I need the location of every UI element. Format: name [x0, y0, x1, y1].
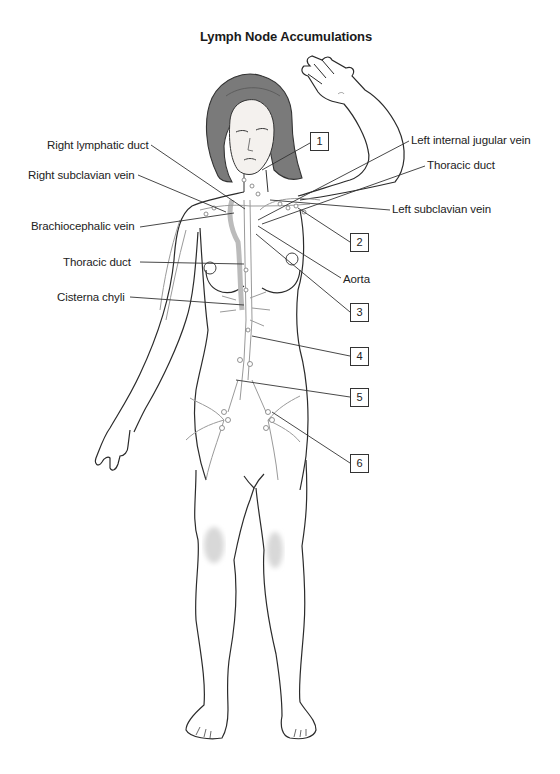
label-thoracic-duct-right: Thoracic duct [427, 159, 495, 172]
label-thoracic-duct-left: Thoracic duct [63, 256, 131, 269]
label-right-lymphatic-duct: Right lymphatic duct [47, 139, 149, 152]
head [229, 100, 274, 192]
lymphatic-vessels [160, 198, 320, 480]
label-left-subclavian-vein: Left subclavian vein [392, 203, 491, 216]
label-cisterna-chyli: Cisterna chyli [57, 291, 125, 304]
label-right-subclavian-vein: Right subclavian vein [28, 169, 135, 182]
legs [186, 460, 316, 739]
callout-box-6: 6 [350, 454, 369, 473]
leader-lines [130, 141, 425, 463]
label-brachiocephalic-vein: Brachiocephalic vein [31, 220, 134, 233]
callout-box-4: 4 [350, 347, 369, 366]
callout-box-1: 1 [310, 132, 329, 151]
label-aorta: Aorta [343, 273, 370, 286]
body-illustration [0, 0, 560, 774]
callout-box-3: 3 [350, 303, 369, 322]
lymph-nodes [204, 178, 306, 431]
label-left-internal-jugular-vein: Left internal jugular vein [411, 134, 531, 147]
callout-box-5: 5 [350, 388, 369, 407]
raised-arm [298, 56, 404, 200]
callout-box-2: 2 [350, 233, 369, 252]
